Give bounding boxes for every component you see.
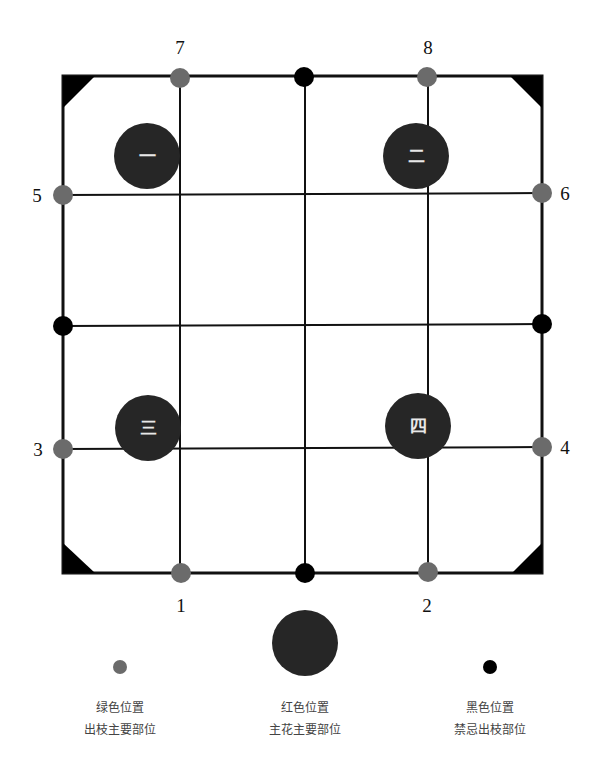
legend-red-description: 主花主要部位 — [225, 719, 385, 741]
grid-line-horizontal-top — [63, 193, 542, 195]
legend-black: 黑色位置 禁忌出枝部位 — [410, 697, 570, 741]
position-number-4: 4 — [560, 437, 570, 458]
corner-triangle-top-right — [510, 76, 542, 108]
main-position-2: 二 — [383, 123, 449, 189]
main-position-3: 三 — [115, 395, 181, 461]
main-position-4-label: 四 — [410, 416, 427, 436]
branch-dot-7 — [170, 68, 190, 88]
forbidden-dot-top — [294, 67, 314, 87]
legend-black-description: 禁忌出枝部位 — [410, 719, 570, 741]
position-number-2: 2 — [422, 595, 432, 616]
legend-green-title: 绿色位置 — [40, 697, 200, 719]
position-number-7: 7 — [175, 37, 185, 58]
grid-line-horizontal-middle — [63, 324, 542, 326]
legend-green: 绿色位置 出枝主要部位 — [40, 697, 200, 741]
branch-dot-2 — [418, 562, 438, 582]
legend-red: 红色位置 主花主要部位 — [225, 697, 385, 741]
legend-green-description: 出枝主要部位 — [40, 719, 200, 741]
legend-black-dot — [483, 660, 497, 674]
branch-dot-4 — [532, 437, 552, 457]
branch-dot-6 — [532, 183, 552, 203]
branch-dot-5 — [53, 185, 73, 205]
branch-dot-3 — [53, 439, 73, 459]
position-number-1: 1 — [176, 595, 186, 616]
forbidden-dot-bottom — [295, 563, 315, 583]
main-position-4: 四 — [385, 393, 451, 459]
position-number-8: 8 — [423, 37, 433, 58]
forbidden-dot-left — [53, 316, 73, 336]
branch-dot-8 — [417, 67, 437, 87]
main-position-3-label: 三 — [140, 418, 157, 438]
forbidden-dot-right — [532, 314, 552, 334]
corner-triangle-bottom-right — [512, 543, 542, 573]
placement-diagram: 一 二 三 四 7 8 5 6 3 4 1 2 — [0, 0, 603, 771]
position-number-3: 3 — [33, 439, 43, 460]
position-number-6: 6 — [560, 183, 570, 204]
legend-green-dot — [113, 660, 127, 674]
branch-dot-1 — [171, 563, 191, 583]
legend-red-circle — [272, 610, 338, 676]
main-position-1-label: 一 — [139, 146, 156, 166]
position-number-5: 5 — [32, 185, 42, 206]
main-position-1: 一 — [114, 123, 180, 189]
legend-red-title: 红色位置 — [225, 697, 385, 719]
legend-black-title: 黑色位置 — [410, 697, 570, 719]
corner-triangle-top-left — [63, 76, 95, 108]
corner-triangle-bottom-left — [63, 543, 95, 573]
main-position-2-label: 二 — [408, 146, 425, 166]
